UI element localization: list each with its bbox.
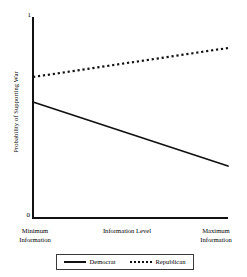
legend-label-democrat: Democrat bbox=[89, 258, 115, 266]
legend-swatch-democrat bbox=[64, 260, 86, 265]
series-line-republican bbox=[33, 48, 228, 77]
chart-figure: 1 0 Probability of Supporting War Minimu… bbox=[0, 0, 247, 277]
legend-swatch-republican bbox=[130, 260, 152, 265]
legend-entry-republican: Republican bbox=[130, 258, 185, 266]
legend-entry-democrat: Democrat bbox=[64, 258, 115, 266]
legend-label-republican: Republican bbox=[155, 258, 185, 266]
series-layer bbox=[0, 0, 247, 277]
series-line-democrat bbox=[33, 102, 228, 166]
chart-legend: DemocratRepublican bbox=[56, 254, 194, 270]
